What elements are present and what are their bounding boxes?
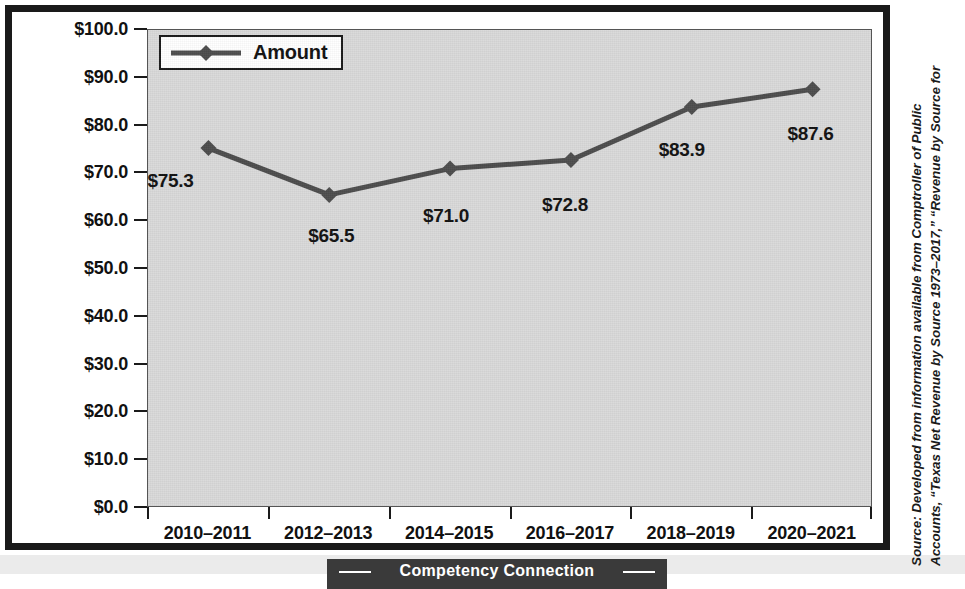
y-axis-tick-label: $70.0: [84, 162, 128, 183]
data-point-value-label: $71.0: [423, 205, 469, 227]
source-note-line-2: Accounts, “Texas Net Revenue by Source 1…: [928, 66, 943, 566]
y-axis-tick-label: $80.0: [84, 114, 128, 135]
y-axis-tick-label: $0.0: [94, 497, 128, 518]
y-axis-tick-mark: [134, 315, 147, 317]
source-note: Source: Developed from information avail…: [893, 0, 965, 574]
x-axis-tick-mark: [751, 507, 753, 519]
plot-area: $75.3$65.5$71.0$72.8$83.9$87.6 Amount: [147, 29, 872, 507]
x-axis-tick-mark: [510, 507, 512, 519]
x-axis-tick-label: 2020–2021: [767, 523, 855, 544]
y-axis-tick-mark: [134, 171, 147, 173]
y-axis-labels: $100.0$90.0$80.0$70.0$60.0$50.0$40.0$30.…: [12, 12, 142, 557]
chart-frame: $100.0$90.0$80.0$70.0$60.0$50.0$40.0$30.…: [5, 5, 890, 550]
y-axis-tick-mark: [134, 363, 147, 365]
y-axis-tick-mark: [134, 458, 147, 460]
series-data-point-marker: [442, 161, 458, 177]
data-point-value-label: $87.6: [788, 123, 834, 145]
legend-line-marker-icon: [169, 42, 243, 64]
series-data-point-marker: [684, 99, 700, 115]
x-axis-tick-label: 2016–2017: [526, 523, 614, 544]
legend-label-amount: Amount: [253, 41, 327, 64]
y-axis-tick-label: $90.0: [84, 66, 128, 87]
data-point-value-label: $75.3: [147, 170, 193, 192]
series-data-point-marker: [805, 81, 821, 97]
y-axis-tick-mark: [134, 124, 147, 126]
x-axis-tick-label: 2018–2019: [647, 523, 735, 544]
series-line-amount: [148, 30, 873, 508]
x-axis-tick-mark: [870, 507, 872, 519]
x-axis-tick-mark: [630, 507, 632, 519]
banner-rule-left: [339, 571, 371, 573]
y-axis-tick-label: $20.0: [84, 401, 128, 422]
x-axis-tick-label: 2014–2015: [405, 523, 493, 544]
data-point-value-label: $72.8: [542, 194, 588, 216]
y-axis-tick-label: $100.0: [74, 19, 128, 40]
banner-rule-right: [623, 571, 655, 573]
x-axis-tick-label: 2010–2011: [164, 523, 251, 544]
source-note-line-1: Source: Developed from information avail…: [909, 104, 924, 566]
series-polyline: [208, 89, 812, 195]
y-axis-tick-label: $10.0: [84, 449, 128, 470]
y-axis-tick-mark: [134, 506, 147, 508]
y-axis-tick-label: $60.0: [84, 210, 128, 231]
y-axis-tick-label: $30.0: [84, 353, 128, 374]
competency-connection-banner: Competency Connection: [327, 559, 667, 589]
chart-legend: Amount: [159, 35, 343, 70]
series-data-point-marker: [321, 187, 337, 203]
y-axis-tick-mark: [134, 410, 147, 412]
y-axis-tick-mark: [134, 267, 147, 269]
x-axis-tick-mark: [389, 507, 391, 519]
y-axis-tick-label: $40.0: [84, 305, 128, 326]
y-axis-tick-mark: [134, 28, 147, 30]
data-point-value-label: $65.5: [308, 225, 354, 247]
x-axis-ticks: [147, 507, 873, 519]
y-axis-tick-mark: [134, 76, 147, 78]
y-axis-ticks: [134, 12, 148, 557]
series-data-point-marker: [200, 140, 216, 156]
x-axis-labels: 2010–20112012–20132014–20152016–20172018…: [147, 523, 873, 551]
competency-connection-label: Competency Connection: [400, 562, 595, 580]
y-axis-tick-label: $50.0: [84, 258, 128, 279]
x-axis-tick-label: 2012–2013: [284, 523, 372, 544]
data-point-value-label: $83.9: [659, 139, 705, 161]
x-axis-tick-mark: [147, 507, 149, 519]
x-axis-tick-mark: [268, 507, 270, 519]
y-axis-tick-mark: [134, 219, 147, 221]
series-data-point-marker: [563, 152, 579, 168]
